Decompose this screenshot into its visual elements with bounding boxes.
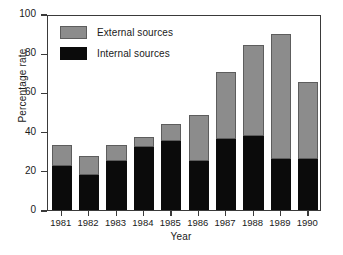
x-axis-tick-label: 1982 bbox=[74, 217, 101, 228]
legend-item: External sources bbox=[60, 24, 173, 41]
bar-segment-external[interactable] bbox=[298, 82, 318, 159]
bar-segment-external[interactable] bbox=[79, 156, 99, 175]
x-axis-tick-mark bbox=[88, 211, 89, 216]
x-axis-tick-mark bbox=[170, 211, 171, 216]
bar-chart: Percentage rate Year 020406080100 198119… bbox=[0, 0, 343, 255]
bar-segment-internal[interactable] bbox=[216, 139, 236, 210]
x-axis-tick-mark bbox=[116, 211, 117, 216]
bar-segment-internal[interactable] bbox=[106, 161, 126, 210]
x-axis-tick-mark bbox=[143, 211, 144, 216]
y-axis-tick-label: 0 bbox=[30, 204, 36, 215]
bar-segment-external[interactable] bbox=[189, 115, 209, 161]
chart-legend: External sourcesInternal sources bbox=[60, 24, 173, 66]
x-axis-tick-label: 1989 bbox=[266, 217, 293, 228]
bar-group[interactable] bbox=[298, 14, 318, 210]
y-axis-tick-label: 40 bbox=[25, 126, 36, 137]
x-axis-tick-label: 1983 bbox=[102, 217, 129, 228]
bar-segment-internal[interactable] bbox=[134, 147, 154, 210]
x-axis-tick-label: 1990 bbox=[294, 217, 321, 228]
bar-segment-external[interactable] bbox=[271, 34, 291, 159]
x-axis-tick-label: 1986 bbox=[184, 217, 211, 228]
x-axis-tick-mark bbox=[61, 211, 62, 216]
legend-item-label: Internal sources bbox=[97, 48, 170, 59]
bar-segment-external[interactable] bbox=[106, 145, 126, 161]
bar-segment-internal[interactable] bbox=[271, 159, 291, 210]
x-axis-tick-label: 1987 bbox=[211, 217, 238, 228]
bar-segment-internal[interactable] bbox=[52, 166, 72, 210]
bar-segment-internal[interactable] bbox=[298, 159, 318, 210]
bar-group[interactable] bbox=[216, 14, 236, 210]
bar-segment-external[interactable] bbox=[243, 45, 263, 135]
legend-swatch-icon bbox=[60, 26, 87, 39]
bar-segment-external[interactable] bbox=[134, 137, 154, 147]
bar-segment-internal[interactable] bbox=[79, 175, 99, 210]
x-axis-tick-mark bbox=[307, 211, 308, 216]
y-axis-tick-label: 60 bbox=[25, 86, 36, 97]
x-axis-tick-mark bbox=[198, 211, 199, 216]
x-axis-tick-label: 1981 bbox=[47, 217, 74, 228]
bar-group[interactable] bbox=[243, 14, 263, 210]
bar-segment-internal[interactable] bbox=[189, 161, 209, 210]
legend-item: Internal sources bbox=[60, 45, 173, 62]
x-axis-tick-label: 1985 bbox=[157, 217, 184, 228]
x-axis-tick-label: 1988 bbox=[239, 217, 266, 228]
legend-swatch-icon bbox=[60, 47, 87, 60]
bar-segment-external[interactable] bbox=[161, 124, 181, 142]
y-axis-tick-label: 100 bbox=[19, 8, 36, 19]
bar-segment-external[interactable] bbox=[52, 145, 72, 166]
x-axis-tick-mark bbox=[225, 211, 226, 216]
bar-group[interactable] bbox=[189, 14, 209, 210]
x-axis-tick-mark bbox=[280, 211, 281, 216]
x-axis-label: Year bbox=[40, 231, 322, 242]
bar-segment-internal[interactable] bbox=[243, 136, 263, 210]
x-axis-tick-label: 1984 bbox=[129, 217, 156, 228]
bar-segment-internal[interactable] bbox=[161, 141, 181, 210]
legend-item-label: External sources bbox=[97, 27, 173, 38]
x-axis-tick-mark bbox=[253, 211, 254, 216]
y-axis-tick-label: 20 bbox=[25, 165, 36, 176]
y-axis-tick-label: 80 bbox=[25, 47, 36, 58]
bar-segment-external[interactable] bbox=[216, 72, 236, 140]
bar-group[interactable] bbox=[271, 14, 291, 210]
